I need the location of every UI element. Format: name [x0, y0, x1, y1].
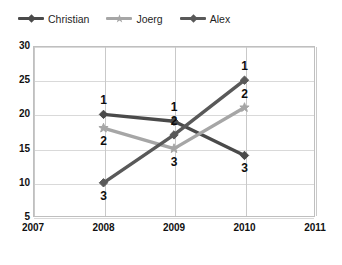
data-point-label: 3 — [234, 162, 256, 174]
y-axis-tick-label: 30 — [2, 41, 30, 51]
data-point-label: 1 — [163, 101, 185, 113]
x-axis-tick-label: 2008 — [82, 222, 126, 233]
y-axis-tick-label: 5 — [2, 212, 30, 222]
x-axis-tick-labels: 20072008200920102011 — [33, 222, 315, 236]
x-axis-tick-label: 2007 — [11, 222, 55, 233]
x-axis-tick-label: 2009 — [152, 222, 196, 233]
legend-marker-christian — [18, 13, 44, 25]
x-axis-tick-label: 2011 — [293, 222, 337, 233]
data-point-label: 1 — [234, 60, 256, 72]
y-axis-tick-label: 25 — [2, 75, 30, 85]
data-point-label: 3 — [93, 190, 115, 202]
legend-item-alex[interactable]: Alex — [180, 11, 230, 27]
legend-label-christian: Christian — [48, 13, 89, 25]
y-axis-tick-label: 15 — [2, 144, 30, 154]
data-point-label: 2 — [163, 115, 185, 127]
star-icon — [115, 14, 124, 23]
legend-item-joerg[interactable]: Joerg — [106, 11, 162, 27]
point-labels-layer: 113232321 — [33, 46, 315, 217]
chart-legend: Christian Joerg Alex — [18, 11, 230, 27]
data-point-label: 2 — [93, 135, 115, 147]
y-axis-tick-labels: 51015202530 — [0, 46, 30, 217]
data-point-label: 2 — [234, 88, 256, 100]
legend-label-alex: Alex — [210, 13, 230, 25]
legend-marker-joerg — [106, 13, 132, 25]
legend-item-christian[interactable]: Christian — [18, 11, 89, 27]
data-point-label: 3 — [163, 156, 185, 168]
y-axis-tick-label: 10 — [2, 178, 30, 188]
legend-label-joerg: Joerg — [136, 13, 162, 25]
gridline-horizontal — [34, 218, 314, 219]
line-chart: Christian Joerg Alex 51015202530 — [0, 0, 342, 265]
x-axis-tick-label: 2010 — [223, 222, 267, 233]
legend-marker-alex — [180, 13, 206, 25]
diamond-icon — [189, 14, 198, 23]
y-axis-tick-label: 20 — [2, 109, 30, 119]
diamond-icon — [27, 14, 36, 23]
data-point-label: 1 — [93, 94, 115, 106]
gridline-vertical — [316, 47, 317, 216]
